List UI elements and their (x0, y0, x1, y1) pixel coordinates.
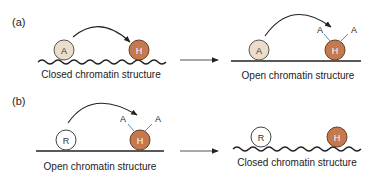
caption: Closed chromatin structure (41, 69, 161, 80)
acetyl-mark: A (120, 114, 126, 124)
wavy-dna (38, 60, 166, 64)
action-arc (68, 103, 137, 123)
panel-a-before: A H Closed chromatin structure (38, 27, 166, 80)
caption: Open chromatin structure (44, 161, 157, 172)
action-arc (73, 27, 130, 42)
chromatin-diagram: (a) A H Closed chromatin structure A A A… (0, 0, 372, 178)
svg-text:A: A (256, 46, 262, 56)
caption: Open chromatin structure (242, 70, 355, 81)
activator-protein: A (54, 40, 74, 60)
histone-protein: H (129, 40, 149, 60)
panel-b-after: R H Closed chromatin structure (233, 127, 361, 168)
panel-a-after: A A A H Open chromatin structure (231, 14, 361, 81)
svg-text:H: H (137, 136, 144, 146)
caption: Closed chromatin structure (237, 157, 357, 168)
histone-protein: H (325, 40, 345, 60)
histone-protein: H (130, 130, 150, 150)
acetyl-mark: A (155, 114, 161, 124)
acetyl-mark: A (317, 25, 323, 35)
svg-text:R: R (63, 136, 70, 146)
svg-text:R: R (258, 133, 265, 143)
activator-protein: A (249, 40, 269, 60)
svg-text:A: A (61, 46, 67, 56)
svg-text:H: H (334, 133, 341, 143)
panel-b-before: R A A H Open chromatin structure (36, 103, 164, 172)
repressor-protein: R (56, 130, 76, 150)
panel-a-label: (a) (12, 16, 25, 28)
acetyl-mark: A (351, 25, 357, 35)
repressor-protein: R (251, 127, 271, 147)
svg-text:H: H (332, 46, 339, 56)
svg-text:H: H (136, 46, 143, 56)
panel-b-label: (b) (12, 95, 25, 107)
histone-protein: H (327, 127, 347, 147)
wavy-dna (233, 147, 361, 151)
